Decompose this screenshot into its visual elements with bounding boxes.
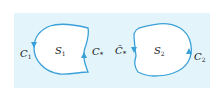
surfaces-diagram: C1 S1 C* C̄* S2 C2 bbox=[0, 0, 221, 97]
label-c-star: C* bbox=[92, 46, 104, 59]
label-c1: C1 bbox=[20, 48, 31, 60]
label-c-bar-star: C̄* bbox=[115, 45, 127, 58]
label-c2: C2 bbox=[194, 51, 206, 63]
